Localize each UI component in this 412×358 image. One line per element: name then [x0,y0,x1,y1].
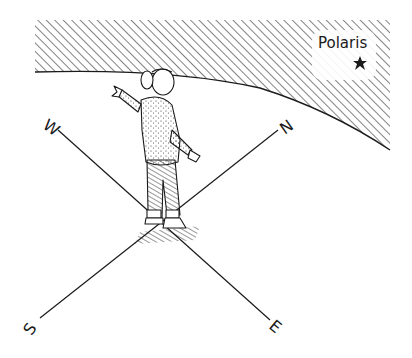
compass-illustration: Polaris W N S E [0,0,412,358]
north-label: N [276,116,297,138]
girl-figure [112,69,200,244]
south-label: S [19,319,40,338]
polaris-label: Polaris [318,34,367,52]
west-label: W [39,115,63,140]
